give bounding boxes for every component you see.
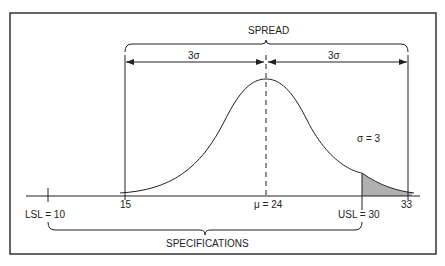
left-sigma-label: 3σ (188, 50, 200, 61)
specifications-brace (48, 222, 362, 235)
right-sigma-label: 3σ (328, 50, 340, 61)
tick-label-33: 33 (401, 199, 412, 210)
tick-label-15: 15 (120, 199, 131, 210)
tick-label-mean: μ = 24 (254, 199, 282, 210)
sigma-value-label: σ = 3 (357, 133, 380, 144)
specifications-label: SPECIFICATIONS (166, 238, 249, 249)
out-of-spec-area (362, 173, 412, 196)
spread-brace (125, 40, 408, 52)
spread-label: SPREAD (248, 25, 289, 36)
tick-label-usl: USL = 30 (338, 209, 380, 220)
tick-label-lsl: LSL = 10 (25, 209, 65, 220)
